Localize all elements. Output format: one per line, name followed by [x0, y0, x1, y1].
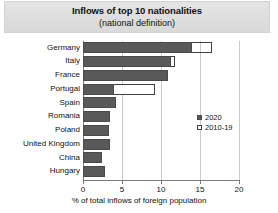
bar-2020-france: [83, 70, 168, 81]
tick-mark-20: [239, 181, 240, 184]
tick-mark-0: [83, 181, 84, 184]
category-label-italy: Italy: [65, 56, 80, 66]
bar-2020-united-kingdom: [83, 139, 110, 150]
category-label-united-kingdom: United Kingdom: [23, 139, 80, 149]
tick-label-5: 5: [110, 185, 134, 194]
legend-label-2010-19: 2010-19: [205, 123, 233, 132]
bar-2020-china: [83, 152, 102, 163]
chart-title-band: Inflows of top 10 nationalities (nationa…: [4, 1, 270, 33]
category-label-france: France: [55, 70, 80, 80]
tick-label-20: 20: [227, 185, 251, 194]
bar-2020-spain: [83, 97, 116, 108]
legend-item-2010-19: 2010-19: [197, 123, 245, 132]
chart-figure: Inflows of top 10 nationalities (nationa…: [0, 0, 278, 213]
category-label-romania: Romania: [48, 111, 80, 121]
tick-mark-10: [161, 181, 162, 184]
bar-2020-italy: [83, 56, 171, 67]
bar-2020-hungary: [83, 166, 105, 177]
legend-item-2020: 2020: [197, 113, 245, 122]
tick-mark-15: [200, 181, 201, 184]
x-axis-caption: % of total inflows of foreign population: [0, 196, 278, 205]
legend-swatch-2020-icon: [197, 115, 202, 120]
plot-area: [83, 41, 239, 180]
category-label-germany: Germany: [47, 43, 80, 53]
tick-label-15: 15: [188, 185, 212, 194]
legend-label-2020: 2020: [205, 113, 222, 122]
tick-label-10: 10: [149, 185, 173, 194]
chart-title: Inflows of top 10 nationalities: [5, 5, 269, 16]
tick-mark-5: [122, 181, 123, 184]
category-label-poland: Poland: [55, 125, 80, 135]
chart-legend: 2020 2010-19: [197, 113, 245, 133]
category-label-spain: Spain: [60, 98, 80, 108]
chart-subtitle: (national definition): [5, 18, 269, 28]
bar-2020-romania: [83, 111, 110, 122]
bar-2020-germany-fill: [83, 42, 192, 53]
category-label-portugal: Portugal: [50, 84, 80, 94]
gridline-20: [239, 41, 240, 180]
legend-swatch-2010-19-icon: [197, 125, 202, 130]
tick-label-0: 0: [71, 185, 95, 194]
category-label-china: China: [59, 153, 80, 163]
bar-2020-poland: [83, 125, 109, 136]
category-axis-labels: Germany Italy France Portugal Spain Roma…: [0, 41, 80, 180]
category-label-hungary: Hungary: [50, 166, 80, 176]
bar-2020-portugal: [83, 84, 114, 95]
